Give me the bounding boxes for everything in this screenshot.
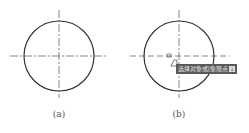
figure-a bbox=[10, 10, 108, 98]
command-tooltip: 选择对象或[象限点] ↓ bbox=[176, 64, 237, 74]
figure-b bbox=[130, 10, 230, 98]
caption-a: (a) bbox=[53, 109, 65, 119]
snap-marker bbox=[167, 54, 171, 57]
caption-b: (b) bbox=[173, 109, 186, 119]
down-arrow-icon[interactable]: ↓ bbox=[229, 66, 235, 72]
tooltip-text: 选择对象或[象限点] bbox=[178, 65, 231, 72]
